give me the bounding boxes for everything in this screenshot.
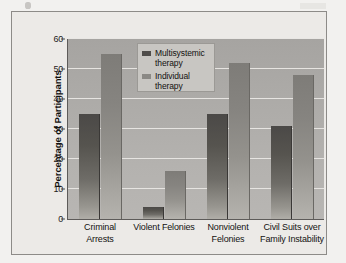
bar-multisystemic bbox=[79, 114, 100, 219]
x-axis-label-line: Family Instability bbox=[260, 234, 324, 244]
bar-individual bbox=[101, 54, 122, 219]
x-axis-label-line: Nonviolent bbox=[207, 222, 248, 232]
x-axis-label-line: Violent Felonies bbox=[133, 222, 194, 232]
x-axis-category-labels: CriminalArrestsViolent FeloniesNonviolen… bbox=[68, 222, 324, 254]
y-axis-tick-mark bbox=[61, 159, 65, 160]
bar-multisystemic bbox=[143, 207, 164, 219]
bar-multisystemic bbox=[207, 114, 228, 219]
y-axis-tick-mark bbox=[61, 99, 65, 100]
chart-legend: Multisystemictherapy Individualtherapy bbox=[137, 43, 215, 92]
y-axis-tick-label: 0 bbox=[17, 214, 63, 224]
y-axis-tick-mark bbox=[61, 189, 65, 190]
x-axis-label-line: Civil Suits over bbox=[263, 222, 320, 232]
y-axis-tick-mark bbox=[61, 69, 65, 70]
bar-multisystemic bbox=[271, 126, 292, 219]
scan-artifact-mark bbox=[25, 2, 31, 9]
x-axis-label-line: Criminal bbox=[84, 222, 116, 232]
chart-figure-frame: Percentage of Participants 0102030405060… bbox=[11, 11, 327, 255]
x-axis-label-line: Felonies bbox=[212, 234, 245, 244]
legend-item-individual: Individualtherapy bbox=[142, 71, 211, 91]
x-axis-label: Civil Suits overFamily Instability bbox=[252, 222, 332, 245]
legend-swatch-multisystemic-icon bbox=[142, 51, 151, 56]
y-axis-tick-label: 50 bbox=[17, 64, 63, 74]
y-axis-tick-label: 30 bbox=[17, 124, 63, 134]
y-axis-tick-label: 40 bbox=[17, 94, 63, 104]
legend-item-multisystemic: Multisystemictherapy bbox=[142, 48, 211, 68]
legend-label-multisystemic: Multisystemictherapy bbox=[155, 48, 205, 68]
legend-swatch-individual-icon bbox=[142, 74, 151, 79]
y-axis-tick-labels: 0102030405060 bbox=[12, 39, 63, 220]
legend-label-individual: Individualtherapy bbox=[155, 71, 190, 91]
scan-artifact-smudge bbox=[300, 3, 326, 9]
bar-individual bbox=[165, 171, 186, 219]
y-axis-tick-mark bbox=[61, 129, 65, 130]
x-axis-label-line: Arrests bbox=[86, 234, 113, 244]
y-axis-tick-mark bbox=[61, 219, 65, 220]
y-axis-tick-label: 60 bbox=[17, 34, 63, 44]
y-axis-tick-label: 20 bbox=[17, 154, 63, 164]
y-axis-tick-mark bbox=[61, 39, 65, 40]
y-axis-tick-label: 10 bbox=[17, 184, 63, 194]
bar-individual bbox=[293, 75, 314, 219]
gridline bbox=[68, 38, 324, 39]
bar-individual bbox=[229, 63, 250, 219]
